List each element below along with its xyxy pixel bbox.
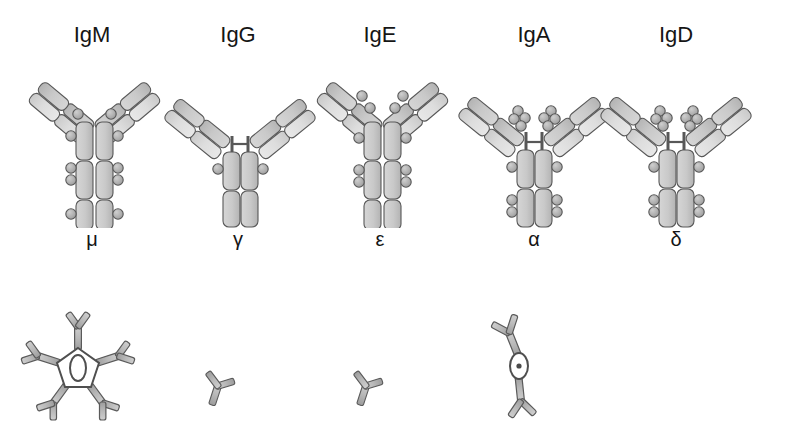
native-form-igg-monomer xyxy=(190,358,246,406)
heavy-chain-label-delta: δ xyxy=(636,228,716,251)
class-label-igm: IgM xyxy=(52,22,132,48)
monomer-structure-ige xyxy=(300,48,465,228)
heavy-chain-label-epsilon: ε xyxy=(340,228,420,251)
class-label-iga: IgA xyxy=(494,22,574,48)
monomer-structure-igm xyxy=(12,48,177,228)
native-form-ige-monomer xyxy=(338,358,394,406)
monomer-structure-igg xyxy=(160,48,320,228)
heavy-chain-label-alpha: α xyxy=(494,228,574,251)
heavy-chain-label-gamma: γ xyxy=(198,228,278,251)
native-form-igm-pentamer xyxy=(8,305,148,435)
class-label-igg: IgG xyxy=(198,22,278,48)
class-label-igd: IgD xyxy=(636,22,716,48)
class-label-ige: IgE xyxy=(340,22,420,48)
monomer-structure-igd xyxy=(594,48,759,228)
native-form-iga-dimer xyxy=(472,310,568,430)
heavy-chain-label-mu: μ xyxy=(52,228,132,251)
monomer-structure-iga xyxy=(452,48,617,228)
immunoglobulin-figure: IgM IgG IgE IgA IgD xyxy=(0,0,792,443)
